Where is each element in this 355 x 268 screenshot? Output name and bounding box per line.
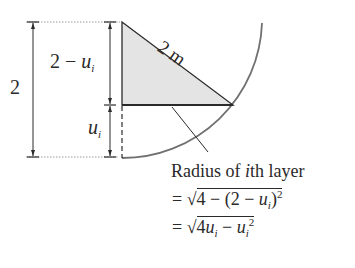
caption-equation-1: = √4 − (2 − ui)2 bbox=[172, 188, 282, 211]
caption-title: Radius of ith layer bbox=[171, 161, 305, 182]
leader-line bbox=[172, 107, 208, 152]
upper-segment-label: 2 − ui bbox=[50, 50, 94, 73]
lower-segment-label: ui bbox=[88, 116, 101, 139]
total-height-label: 2 bbox=[10, 76, 20, 99]
caption-equation-2: = √4ui − ui2 bbox=[172, 216, 254, 239]
